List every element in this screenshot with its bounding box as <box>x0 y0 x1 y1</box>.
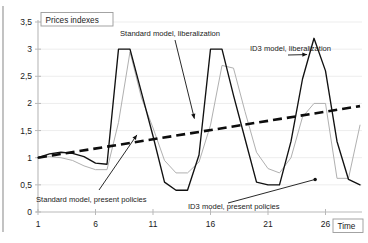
annotation-leader-line <box>99 135 137 190</box>
series-id3-model <box>38 52 360 178</box>
y-tick-label: 0 <box>27 207 32 217</box>
series-standard-model <box>38 38 360 190</box>
chart-canvas: 00,511,522,533,5 1611162126 Standard mod… <box>0 0 368 243</box>
x-axis-tick-labels: 1611162126 <box>36 219 331 229</box>
annotation-leader-line <box>175 40 194 119</box>
annotation-leader-dot <box>313 178 316 181</box>
annotation-standard-present-policies: Standard model, present policies <box>36 195 147 204</box>
y-tick-label: 3,5 <box>20 17 32 27</box>
y-tick-label: 2 <box>27 98 32 108</box>
x-tick-label: 6 <box>93 219 98 229</box>
x-tick-label: 1 <box>36 219 41 229</box>
annotation-leader-arrowhead <box>191 114 195 119</box>
x-tick-label: 16 <box>206 219 216 229</box>
x-tick-label: 11 <box>149 219 158 229</box>
y-tick-label: 1 <box>27 153 32 163</box>
y-tick-label: 1,5 <box>20 126 32 136</box>
annotation-leader-arrowhead <box>132 135 136 140</box>
annotation-leaders <box>99 40 317 203</box>
annotation-leader-arrowhead <box>302 53 307 57</box>
y-axis-tick-labels: 00,511,522,533,5 <box>20 17 32 217</box>
y-tick-label: 3 <box>27 44 32 54</box>
annotation-id3-present-policies: ID3 model, present policies <box>188 202 280 211</box>
y-tick-label: 2,5 <box>20 71 32 81</box>
x-tick-label: 26 <box>321 219 331 229</box>
annotation-id3-liberalization: ID3 model, liberalization <box>250 44 331 53</box>
annotation-leader-line <box>228 179 315 203</box>
x-tick-label: 21 <box>263 219 273 229</box>
y-tick-label: 0,5 <box>20 180 32 190</box>
annotation-standard-liberalization: Standard model, liberalization <box>120 29 220 38</box>
prices-indexes-chart: 00,511,522,533,5 1611162126 Standard mod… <box>0 0 368 243</box>
x-axis-label: Time <box>338 222 356 231</box>
chart-title: Prices indexes <box>46 16 99 25</box>
